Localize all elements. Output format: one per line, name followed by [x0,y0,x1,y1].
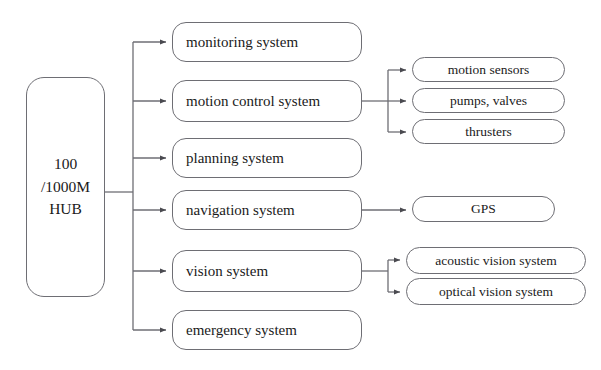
node-gps[interactable]: GPS [412,196,555,222]
node-navigation-system[interactable]: navigation system [172,190,362,230]
node-label: navigation system [186,202,295,219]
node-monitoring-system[interactable]: monitoring system [172,22,362,62]
node-pumps-valves[interactable]: pumps, valves [412,88,565,113]
node-label: thrusters [465,124,512,140]
node-emergency-system[interactable]: emergency system [172,310,362,350]
hub-line-2: /1000M [41,176,90,198]
node-label: pumps, valves [450,93,527,109]
node-acoustic-vision-system[interactable]: acoustic vision system [406,247,586,274]
node-motion-control-system[interactable]: motion control system [172,80,362,122]
node-label: optical vision system [439,284,553,300]
node-label: GPS [471,201,496,217]
node-label: motion sensors [448,62,529,78]
node-label: planning system [186,150,284,167]
node-label: monitoring system [186,34,298,51]
diagram-canvas: 100 /1000M HUB monitoring system motion … [0,0,601,370]
node-label: acoustic vision system [435,253,557,269]
node-planning-system[interactable]: planning system [172,138,362,178]
node-motion-sensors[interactable]: motion sensors [412,57,565,82]
node-label: vision system [186,263,268,280]
node-vision-system[interactable]: vision system [172,250,362,292]
node-thrusters[interactable]: thrusters [412,119,565,144]
hub-node[interactable]: 100 /1000M HUB [26,77,105,297]
hub-line-3: HUB [49,198,82,220]
node-label: emergency system [186,322,297,339]
hub-line-1: 100 [54,153,77,175]
node-optical-vision-system[interactable]: optical vision system [406,278,586,305]
node-label: motion control system [186,93,320,110]
